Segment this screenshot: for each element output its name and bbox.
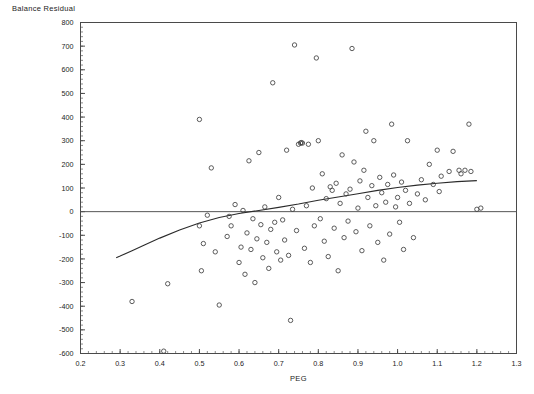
data-point <box>419 178 423 182</box>
data-point <box>199 269 203 273</box>
data-point <box>255 237 259 241</box>
data-point <box>273 220 277 224</box>
data-point <box>368 224 372 228</box>
data-point <box>415 192 419 196</box>
data-point <box>276 195 280 199</box>
data-point <box>304 204 308 208</box>
y-tick-label: 200 <box>62 160 74 169</box>
data-point <box>338 201 342 205</box>
data-point <box>427 162 431 166</box>
data-point <box>374 204 378 208</box>
data-point <box>314 56 318 60</box>
x-tick-label: 0.4 <box>155 359 165 368</box>
data-point <box>447 169 451 173</box>
data-point <box>385 182 389 186</box>
data-point <box>229 224 233 228</box>
data-point <box>162 349 166 353</box>
data-point <box>282 238 286 242</box>
data-point <box>318 217 322 221</box>
tick-labels: 0.20.30.40.50.60.70.80.91.01.11.21.3-600… <box>59 18 521 367</box>
data-point <box>463 168 467 172</box>
data-point <box>330 188 334 192</box>
data-point <box>389 122 393 126</box>
data-point <box>395 195 399 199</box>
data-point <box>467 122 471 126</box>
data-point <box>253 280 257 284</box>
data-point <box>316 139 320 143</box>
data-point <box>263 205 267 209</box>
y-tick-label: -500 <box>59 325 73 334</box>
data-point <box>205 213 209 217</box>
x-tick-label: 0.8 <box>313 359 323 368</box>
data-point <box>451 149 455 153</box>
data-point <box>364 129 368 133</box>
data-point <box>393 205 397 209</box>
data-point <box>310 186 314 190</box>
data-point <box>278 258 282 262</box>
data-point <box>288 318 292 322</box>
data-point <box>356 206 360 210</box>
data-point <box>243 272 247 276</box>
data-point <box>292 43 296 47</box>
data-point <box>302 246 306 250</box>
data-point <box>294 228 298 232</box>
data-point <box>130 299 134 303</box>
x-tick-label: 0.2 <box>76 359 86 368</box>
data-point <box>437 189 441 193</box>
y-tick-label: -200 <box>59 255 73 264</box>
data-point <box>354 230 358 234</box>
data-point <box>370 183 374 187</box>
x-tick-label: 0.5 <box>194 359 204 368</box>
x-tick-label: 0.7 <box>274 359 284 368</box>
smoothed-fit-curve <box>116 181 477 258</box>
data-point <box>286 253 290 257</box>
data-point <box>245 231 249 235</box>
x-tick-label: 0.9 <box>353 359 363 368</box>
data-point <box>249 247 253 251</box>
data-point <box>346 219 350 223</box>
y-tick-label: 600 <box>62 65 74 74</box>
data-point <box>233 202 237 206</box>
data-point <box>352 160 356 164</box>
data-point <box>423 198 427 202</box>
data-point <box>407 201 411 205</box>
data-point <box>275 250 279 254</box>
major-ticks <box>81 23 517 354</box>
data-point <box>391 173 395 177</box>
data-point <box>166 282 170 286</box>
data-point <box>405 139 409 143</box>
y-tick-label: 800 <box>62 18 74 27</box>
data-point <box>399 180 403 184</box>
data-point <box>265 240 269 244</box>
data-point <box>439 174 443 178</box>
y-tick-label: 100 <box>62 184 74 193</box>
data-point <box>267 266 271 270</box>
x-tick-label: 1.2 <box>472 359 482 368</box>
x-axis-title: PEG <box>290 374 307 383</box>
data-point <box>336 269 340 273</box>
data-point <box>382 258 386 262</box>
minor-ticks <box>81 23 517 354</box>
y-tick-label: 300 <box>62 136 74 145</box>
data-point <box>332 226 336 230</box>
y-tick-label: 500 <box>62 89 74 98</box>
x-tick-label: 1.1 <box>432 359 442 368</box>
data-point <box>401 247 405 251</box>
data-point <box>201 241 205 245</box>
data-point <box>479 206 483 210</box>
y-tick-label: -300 <box>59 278 73 287</box>
plot-frame <box>81 23 517 354</box>
data-points <box>130 43 483 354</box>
data-point <box>435 148 439 152</box>
data-point <box>320 172 324 176</box>
data-point <box>348 187 352 191</box>
data-point <box>213 250 217 254</box>
data-point <box>358 179 362 183</box>
data-point <box>239 245 243 249</box>
data-point <box>366 195 370 199</box>
data-point <box>334 181 338 185</box>
data-point <box>312 224 316 228</box>
y-tick-label: -600 <box>59 349 73 358</box>
data-point <box>360 248 364 252</box>
data-point <box>384 200 388 204</box>
